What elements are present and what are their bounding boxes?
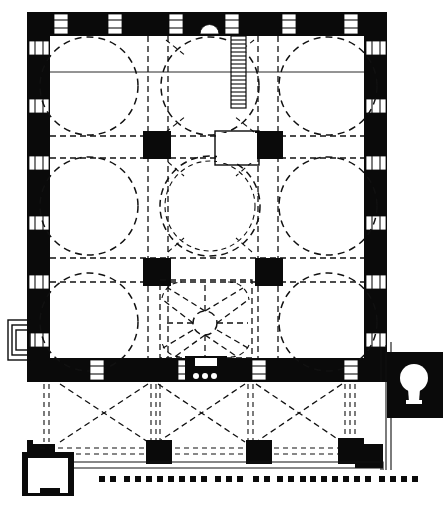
window-opening [344,14,358,34]
mihrab-doorway [366,333,386,347]
window-opening [29,216,49,230]
window-opening [282,14,296,34]
west-portal-doorway [29,333,49,347]
window-opening [29,156,49,170]
floor-plan-canvas: Nine-Bay Domed Mosque — Ground Floor Pla… [0,0,448,508]
portico-front-pier [338,438,364,464]
southwest-corner-room [22,452,74,496]
internal-pier [143,258,171,286]
window-opening [169,14,183,34]
portico-front-pier [146,440,172,464]
minaret-staircase [231,36,246,108]
window-opening [29,99,49,113]
window-opening [366,41,386,55]
internal-pier [255,258,283,286]
window-opening [366,99,386,113]
window-opening [29,275,49,289]
window-opening [225,14,239,34]
architectural-floor-plan-drawing [0,0,448,508]
portico-column [344,360,358,380]
window-opening [366,156,386,170]
mihrab-axis-opening [185,356,227,382]
internal-pier [143,131,171,159]
window-opening [366,275,386,289]
window-opening [29,41,49,55]
paving-step-dots-right [253,476,418,482]
inner-chamber [215,131,259,165]
window-opening [54,14,68,34]
window-opening [108,14,122,34]
portico-column [90,360,104,380]
portico-front-pier [246,440,272,464]
portico-column [252,360,266,380]
